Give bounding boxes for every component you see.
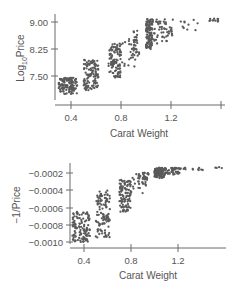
data-point — [119, 205, 121, 207]
data-point — [107, 65, 109, 67]
data-point — [156, 42, 158, 44]
data-point — [125, 192, 127, 194]
data-point — [142, 183, 144, 185]
data-point — [132, 53, 134, 55]
data-point — [111, 43, 113, 45]
y-tick-label: −0.0002 — [28, 168, 63, 179]
data-point — [97, 73, 99, 75]
data-point — [107, 213, 109, 215]
data-point — [97, 69, 99, 71]
data-point — [111, 49, 113, 51]
data-point — [122, 42, 124, 44]
data-point — [92, 86, 94, 88]
data-point — [146, 46, 148, 48]
data-point — [72, 85, 74, 87]
data-point — [101, 207, 103, 209]
x-tick-label: 1.2 — [171, 255, 184, 266]
y-axis-title: Log10Price — [15, 34, 28, 82]
data-point — [73, 215, 75, 217]
data-point — [128, 43, 130, 45]
data-point — [86, 87, 88, 89]
data-point — [128, 58, 130, 60]
data-point — [119, 74, 121, 76]
data-point — [63, 77, 65, 79]
data-point — [127, 192, 129, 194]
data-point — [70, 78, 72, 80]
data-point — [62, 90, 64, 92]
data-point — [155, 176, 157, 178]
data-point — [102, 219, 104, 221]
data-point — [108, 236, 110, 238]
data-point — [117, 74, 119, 76]
data-point — [115, 59, 117, 61]
data-point — [88, 218, 90, 220]
data-point — [74, 226, 76, 228]
data-point — [78, 237, 80, 239]
data-point — [170, 29, 172, 31]
data-point — [105, 218, 107, 220]
data-point — [64, 93, 66, 95]
data-point — [74, 80, 76, 82]
data-point — [202, 169, 204, 171]
data-point — [108, 220, 110, 222]
data-point — [167, 34, 169, 36]
data-point — [127, 203, 129, 205]
chart-log-price: 9.00 8.25 7.50 0.4 0.8 1.2 Carat Weight … — [15, 14, 225, 139]
data-point — [76, 84, 78, 86]
data-point — [95, 71, 97, 73]
data-point — [76, 217, 78, 219]
data-point — [65, 89, 67, 91]
data-point — [74, 88, 76, 90]
data-point — [158, 28, 160, 30]
x-tick-label: 0.8 — [124, 255, 137, 266]
data-point — [85, 89, 87, 91]
data-point — [172, 19, 174, 21]
data-point — [142, 172, 144, 174]
data-point — [158, 177, 160, 179]
data-point — [163, 168, 165, 170]
data-point — [145, 30, 147, 32]
data-point — [155, 39, 157, 41]
data-point — [183, 21, 185, 23]
data-point — [63, 84, 65, 86]
data-point — [128, 38, 130, 40]
data-point — [139, 176, 141, 178]
data-point — [105, 215, 107, 217]
data-point — [73, 234, 75, 236]
data-point — [150, 32, 152, 34]
data-point — [196, 22, 198, 24]
data-point — [89, 235, 91, 237]
data-point — [124, 41, 126, 43]
data-point — [68, 91, 70, 93]
data-point — [69, 82, 71, 84]
data-point — [69, 86, 71, 88]
data-point — [112, 61, 114, 63]
data-point — [175, 171, 177, 173]
data-point — [124, 182, 126, 184]
data-point — [79, 234, 81, 236]
data-point — [125, 196, 127, 198]
y-tick-label: −0.0008 — [28, 220, 63, 231]
data-point — [208, 20, 210, 22]
data-point — [173, 173, 175, 175]
data-point — [104, 229, 106, 231]
data-point — [122, 185, 124, 187]
data-point — [70, 90, 72, 92]
data-point — [131, 177, 133, 179]
data-point — [213, 18, 215, 20]
data-point — [104, 202, 106, 204]
data-point — [218, 166, 220, 168]
data-point — [114, 43, 116, 45]
data-point — [146, 35, 148, 37]
data-point — [156, 170, 158, 172]
data-point — [161, 167, 163, 169]
data-point — [119, 194, 121, 196]
data-point — [121, 189, 123, 191]
data-point — [72, 92, 74, 94]
data-point — [86, 229, 88, 231]
data-point — [90, 88, 92, 90]
data-point — [128, 183, 130, 185]
data-point — [127, 209, 129, 211]
data-point — [84, 233, 86, 235]
data-point — [124, 187, 126, 189]
